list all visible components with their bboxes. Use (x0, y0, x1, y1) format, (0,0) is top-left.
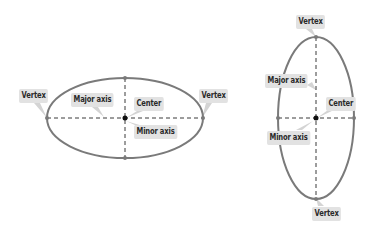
label-major-axis: Major axis (71, 93, 114, 107)
label-vertex-left: Vertex (19, 89, 48, 103)
label-minor-axis: Minor axis (134, 125, 177, 139)
label-center: Center (326, 97, 356, 111)
center-dot (314, 116, 319, 121)
label-major-axis: Major axis (265, 74, 308, 88)
label-vertex-top: Vertex (296, 15, 325, 29)
label-minor-axis: Minor axis (267, 131, 310, 145)
center-dot (123, 116, 128, 121)
ellipse-diagram (0, 0, 373, 231)
horizontal-ellipse-pointers (34, 103, 212, 126)
vertical-ellipse (276, 35, 356, 201)
label-vertex-bottom: Vertex (312, 207, 341, 221)
horizontal-ellipse (45, 76, 205, 160)
label-center: Center (134, 97, 164, 111)
label-vertex-right: Vertex (199, 89, 228, 103)
